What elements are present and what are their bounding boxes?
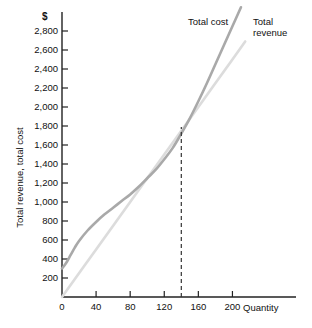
y-axis-tick-label: 2,400	[10, 64, 58, 74]
x-axis-title: Quantity	[243, 302, 278, 313]
y-axis-ticks	[62, 31, 68, 278]
y-axis-tick-label: 400	[10, 254, 58, 264]
y-axis-tick-label: 1,000	[10, 197, 58, 207]
annotation-total-revenue-line2: revenue	[253, 27, 287, 38]
series-line-total-cost	[62, 7, 241, 268]
y-axis-tick-label: 800	[10, 216, 58, 226]
y-axis-tick-label: 2,000	[10, 102, 58, 112]
series-line-total-revenue	[62, 41, 245, 297]
y-axis-tick-label: 1,800	[10, 121, 58, 131]
y-axis-tick-label: 1,200	[10, 178, 58, 188]
y-axis-tick-label: 600	[10, 235, 58, 245]
y-axis-tick-label: 1,400	[10, 159, 58, 169]
x-axis-ticks	[96, 291, 232, 297]
annotation-total-revenue-line1: Total	[253, 16, 273, 27]
y-axis-tick-label: 2,600	[10, 45, 58, 55]
annotation-total-revenue: Total revenue	[253, 16, 303, 38]
chart-container: $ Total revenue, total cost 200400600800…	[0, 0, 312, 328]
y-axis-tick-label: 2,200	[10, 83, 58, 93]
annotation-total-cost: Total cost	[188, 16, 228, 27]
y-axis-tick-label: 1,600	[10, 140, 58, 150]
y-axis-tick-label: 200	[10, 273, 58, 283]
y-axis-tick-label: 2,800	[10, 26, 58, 36]
